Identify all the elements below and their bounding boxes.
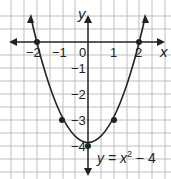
tick-y-neg3: −3 (71, 113, 86, 128)
tick-x-0: 0 (79, 45, 86, 60)
parabola-graph: y x −2 −1 0 1 2 −1 −2 −3 −4 y = x2 − 4 (0, 0, 171, 179)
equation-prefix: y = x (96, 150, 128, 166)
tick-x-neg1: −1 (52, 45, 67, 60)
tick-y-neg2: −2 (71, 87, 86, 102)
tick-y-neg1: −1 (71, 61, 86, 76)
point-neg1-neg3 (59, 117, 65, 123)
tick-x-1: 1 (110, 45, 117, 60)
tick-x-2: 2 (135, 45, 142, 60)
equation-suffix: − 4 (132, 150, 156, 166)
curve-arrow-right (142, 14, 149, 23)
curve-arrow-left (27, 14, 34, 23)
tick-y-neg4: −4 (71, 139, 86, 154)
equation-label: y = x2 − 4 (96, 149, 156, 166)
y-axis-label: y (77, 5, 87, 22)
tick-x-neg2: −2 (26, 45, 41, 60)
point-0-neg4 (85, 143, 91, 149)
point-1-neg3 (111, 117, 117, 123)
x-axis-label: x (159, 43, 168, 60)
